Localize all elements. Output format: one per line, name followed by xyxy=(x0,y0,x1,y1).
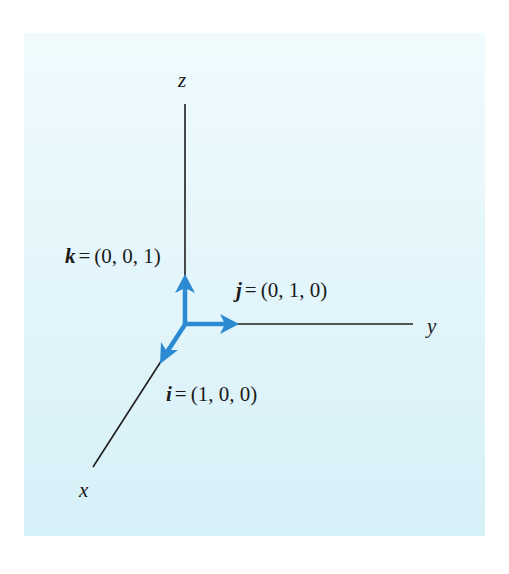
vector-k-label: k=(0, 0, 1) xyxy=(65,246,161,267)
vector-j-symbol: j xyxy=(236,278,242,302)
vector-j-arrow xyxy=(183,314,239,334)
basis-vectors xyxy=(160,274,239,364)
vector-j-value: (0, 1, 0) xyxy=(261,278,328,302)
vector-j-label: j=(0, 1, 0) xyxy=(236,280,327,301)
vector-k-symbol: k xyxy=(65,244,76,268)
z-axis-label: z xyxy=(178,70,186,91)
equals-sign: = xyxy=(79,244,91,268)
vector-i-label: i=(1, 0, 0) xyxy=(166,384,257,405)
vector-i-symbol: i xyxy=(166,382,172,406)
vector-i-arrow xyxy=(160,323,186,364)
equals-sign: = xyxy=(175,382,187,406)
y-axis-label: y xyxy=(427,316,436,337)
vector-k-arrow xyxy=(175,274,195,324)
vector-k-value: (0, 0, 1) xyxy=(94,244,161,268)
equals-sign: = xyxy=(245,278,257,302)
vector-i-value: (1, 0, 0) xyxy=(191,382,258,406)
x-axis-label: x xyxy=(79,480,88,501)
